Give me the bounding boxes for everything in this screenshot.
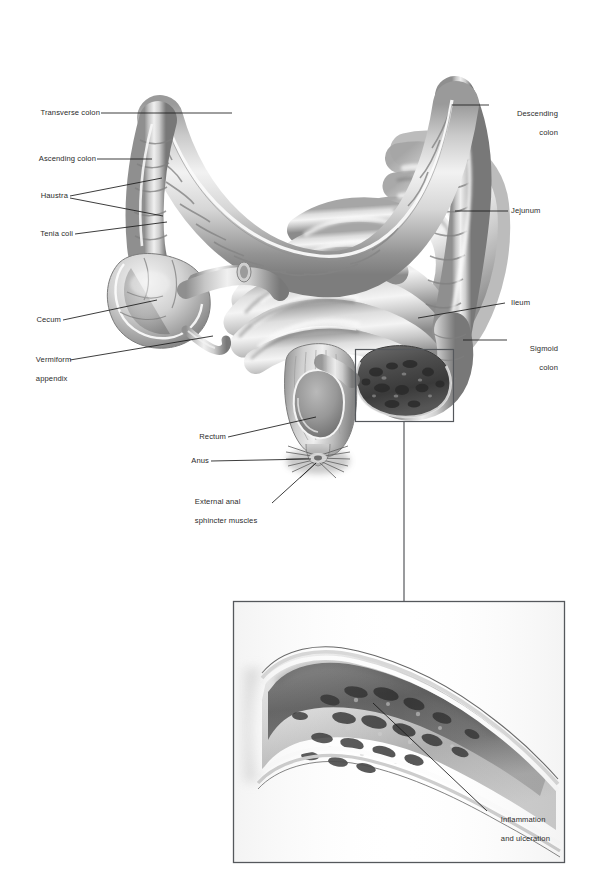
label-sigmoid-colon: Sigmoid colon — [490, 334, 558, 382]
label-cecum: Cecum — [0, 315, 61, 325]
label-external-anal-line2: sphincter muscles — [195, 516, 257, 525]
label-vermiform-appendix-line2: appendix — [36, 374, 68, 383]
label-inflammation-line1: Inflammation — [501, 815, 546, 824]
label-external-anal-sphincter: External anal sphincter muscles — [186, 487, 286, 535]
label-vermiform-appendix-line1: Vermiform — [36, 355, 72, 364]
label-sigmoid-colon-line2: colon — [539, 363, 558, 372]
label-anus: Anus — [130, 456, 209, 466]
label-inflammation-line2: and ulceration — [501, 834, 550, 843]
label-inflammation-and-ulceration: Inflammation and ulceration — [492, 805, 572, 853]
external-anal-sphincter — [286, 446, 350, 478]
transverse-colon — [150, 100, 456, 275]
label-descending-colon-line1: Descending — [517, 109, 558, 118]
diseased-sigmoid-segment — [356, 346, 451, 417]
label-transverse-colon: Transverse colon — [0, 108, 100, 118]
label-ileum: Ileum — [511, 298, 581, 308]
label-rectum: Rectum — [130, 432, 226, 442]
vermiform-appendix — [186, 330, 227, 350]
cecum — [107, 254, 244, 349]
label-descending-colon: Descending colon — [470, 99, 558, 147]
label-haustra: Haustra — [0, 191, 68, 201]
label-jejunum: Jejunum — [511, 206, 591, 216]
label-external-anal-line1: External anal — [195, 497, 241, 506]
anatomy-figure: Transverse colon Ascending colon Haustra… — [0, 0, 599, 885]
label-descending-colon-line2: colon — [539, 128, 558, 137]
label-vermiform-appendix: Vermiform appendix — [27, 345, 101, 393]
label-ascending-colon: Ascending colon — [0, 154, 96, 164]
label-tenia-coli: Tenia coli — [0, 229, 73, 239]
label-sigmoid-colon-line1: Sigmoid — [530, 344, 558, 353]
